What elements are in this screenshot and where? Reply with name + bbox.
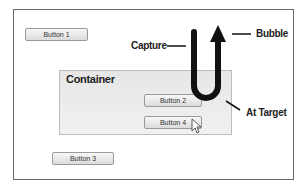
at-target-leader-line [226,101,240,110]
mouse-cursor-icon [192,119,201,133]
arrow-head-icon [210,25,226,42]
event-flow-arrow [0,0,304,192]
